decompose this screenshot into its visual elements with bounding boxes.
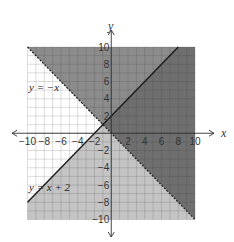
y-tick-label: −10 [92,214,109,225]
y-tick-label: −6 [98,180,110,191]
x-tick-label: −8 [39,136,51,147]
x-tick-label: 6 [159,136,165,147]
x-tick-label: 4 [142,136,148,147]
x-tick-label: 2 [125,136,131,147]
x-tick-label: 10 [189,136,201,147]
x-tick-label: −10 [19,136,36,147]
y-tick-label: 10 [98,42,110,53]
x-tick-label: −4 [72,136,84,147]
y-tick-label: 2 [104,111,110,122]
line2-label: y = x + 2 [28,181,71,193]
y-tick-label: −8 [98,197,110,208]
line1-label: y = −x [28,81,59,93]
x-tick-label: 8 [175,136,181,147]
y-axis-label: y [107,19,114,33]
y-tick-label: 6 [104,76,110,87]
x-tick-label: −6 [55,136,67,147]
y-tick-label: 8 [104,59,110,70]
x-axis-label: x [220,126,227,140]
y-tick-label: −4 [98,162,110,173]
y-tick-label: −2 [98,145,110,156]
y-tick-label: 4 [104,93,110,104]
inequality-graph: −10−8−6−4−2246810−10−8−6−4−2246810 x y y… [0,0,234,242]
